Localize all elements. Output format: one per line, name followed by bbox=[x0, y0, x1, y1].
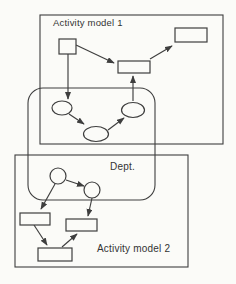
arrow-left-circle-to-left-box bbox=[41, 184, 55, 209]
model1-center-box-node bbox=[118, 61, 150, 73]
arrow-center-box-to-right-box bbox=[150, 46, 172, 59]
model2-bottom-box-node bbox=[38, 248, 72, 261]
diagram-canvas: Activity model 1 Dept. Activity model 2 bbox=[0, 0, 236, 284]
dept-ellipse-right-node bbox=[122, 103, 145, 118]
model1-right-box-node bbox=[175, 28, 207, 42]
activity-model-2-label: Activity model 2 bbox=[97, 243, 170, 254]
dept-label: Dept. bbox=[110, 161, 135, 172]
arrow-bottom-ellipse-to-right-ellipse bbox=[108, 118, 124, 130]
arrow-small-box-to-center-box bbox=[76, 45, 114, 63]
diagram: Activity model 1 Dept. Activity model 2 bbox=[0, 0, 236, 284]
model2-left-box-node bbox=[20, 213, 50, 225]
activity-model-1-label: Activity model 1 bbox=[53, 17, 123, 28]
arrows bbox=[34, 45, 172, 247]
dept-circle-right-node bbox=[84, 182, 100, 198]
model1-small-box-node bbox=[59, 39, 76, 54]
arrow-left-ellipse-to-bottom-ellipse bbox=[69, 114, 84, 124]
dept-ellipse-left-node bbox=[52, 101, 72, 115]
arrow-right-circle-to-right-box bbox=[88, 198, 92, 216]
arrow-left-circle-to-right-circle bbox=[66, 180, 84, 186]
model2-right-box-node bbox=[66, 219, 97, 231]
dept-circle-left-node bbox=[50, 168, 66, 184]
dept-ellipse-bottom-node bbox=[84, 127, 109, 142]
arrow-bottom-box-to-right-box bbox=[62, 234, 77, 247]
arrow-left-box-to-bottom-box bbox=[34, 225, 47, 245]
